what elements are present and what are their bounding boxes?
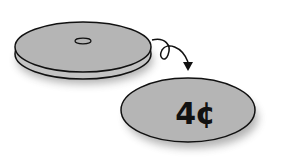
token-flip-illustration: 4¢ <box>0 0 288 168</box>
flip-arrow-icon <box>152 39 193 71</box>
token-back <box>15 22 151 79</box>
center-hole-icon <box>75 38 91 44</box>
illustration-graphic <box>0 0 288 168</box>
token-price-label: 4¢ <box>160 96 230 131</box>
